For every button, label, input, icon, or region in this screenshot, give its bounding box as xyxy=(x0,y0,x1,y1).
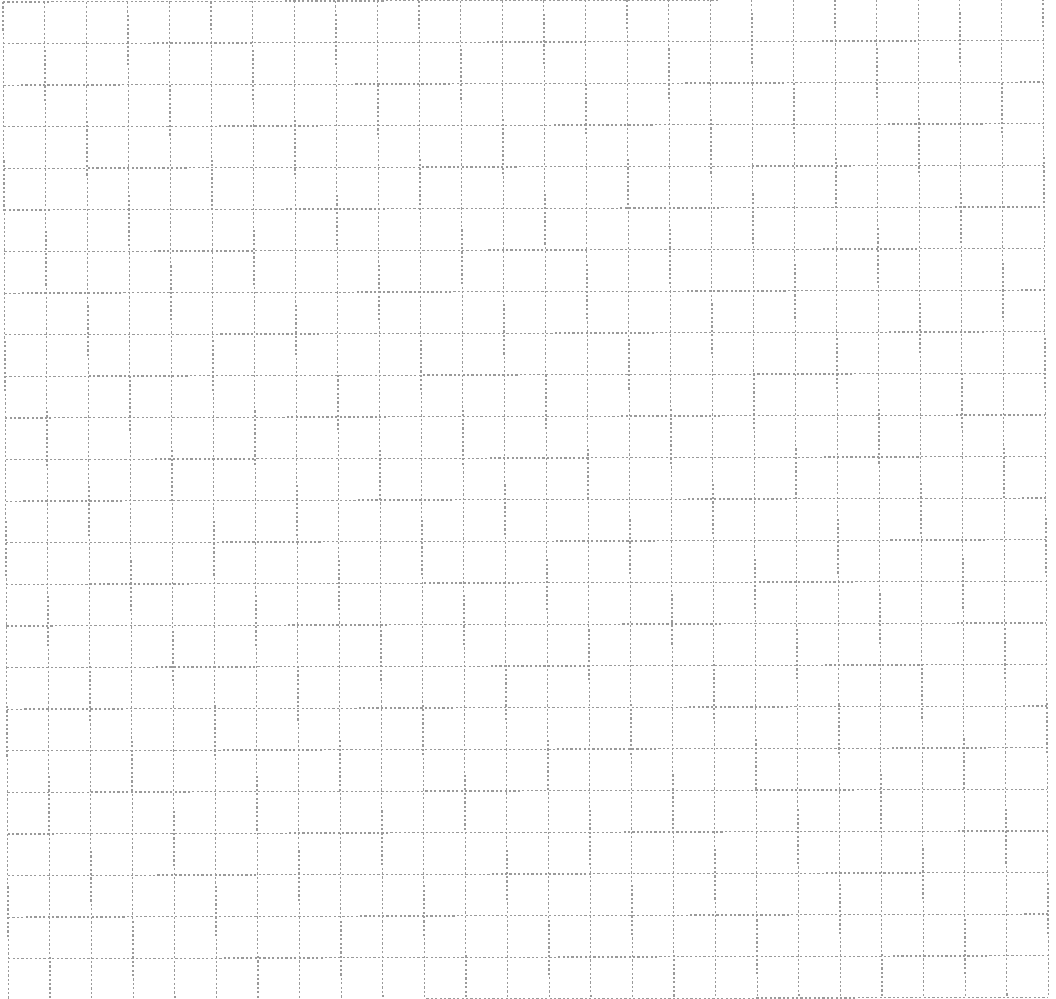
grid-line-horizontal xyxy=(8,914,1048,917)
grid-line-horizontal xyxy=(4,165,1044,168)
grid-line-horizontal xyxy=(5,290,1045,293)
grid-line-horizontal xyxy=(5,332,1045,335)
grid-line-horizontal xyxy=(8,956,1048,959)
grid-line-horizontal xyxy=(7,664,1047,667)
grid-line-horizontal xyxy=(5,373,1045,376)
grid-line-horizontal xyxy=(7,706,1047,709)
grid-line-horizontal xyxy=(6,581,1046,584)
grid-line-horizontal xyxy=(8,831,1048,834)
grid-line-horizontal xyxy=(7,748,1047,751)
grid-line-horizontal xyxy=(5,415,1045,418)
grid-line-horizontal xyxy=(4,124,1044,127)
graph-paper-sheet xyxy=(0,0,1056,999)
grid-line-horizontal xyxy=(8,872,1048,875)
grid-line-horizontal xyxy=(3,0,1043,2)
grid-line-vertical xyxy=(3,2,8,999)
grid-line-horizontal xyxy=(6,623,1046,626)
grid-line-horizontal xyxy=(6,498,1046,501)
grid-line-horizontal xyxy=(6,456,1046,459)
dashed-grid xyxy=(0,0,1056,999)
grid-line-horizontal xyxy=(3,82,1043,85)
grid-line-horizontal xyxy=(4,248,1044,251)
grid-line-horizontal xyxy=(3,40,1043,43)
grid-line-horizontal xyxy=(4,207,1044,210)
grid-line-horizontal xyxy=(7,789,1047,792)
grid-line-horizontal xyxy=(6,540,1046,543)
